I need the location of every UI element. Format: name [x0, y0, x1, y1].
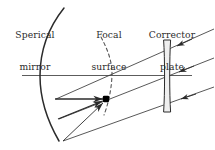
label-corrector-plate-line1: Corrector [139, 30, 205, 41]
optical-diagram: Sperical mirror Focal surface Corrector … [0, 0, 215, 150]
label-spherical-mirror-line1: Sperical [4, 30, 66, 41]
label-focal-surface-line1: Focal [81, 30, 137, 41]
incoming-ray-lower-arrow [181, 94, 196, 99]
label-focal-surface: Focal surface [81, 9, 137, 93]
focal-point-marker [103, 96, 109, 102]
label-spherical-mirror-line2: mirror [4, 62, 66, 73]
reflected-converging-rays [55, 99, 103, 141]
label-spherical-mirror: Sperical mirror [4, 9, 66, 93]
label-corrector-plate: Corrector plate [139, 9, 205, 93]
label-focal-surface-line2: surface [81, 62, 137, 73]
label-corrector-plate-line2: plate [139, 62, 205, 73]
